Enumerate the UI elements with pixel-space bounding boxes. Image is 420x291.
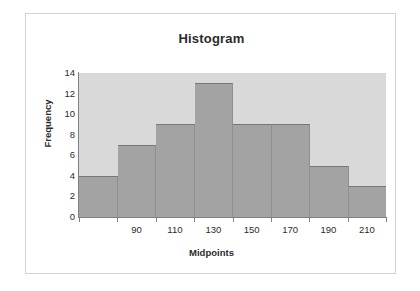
x-tick-label: 150 bbox=[233, 225, 271, 235]
histogram-bars bbox=[79, 73, 386, 217]
x-tick-mark bbox=[117, 218, 118, 222]
x-tick-mark bbox=[233, 218, 234, 222]
x-tick-mark bbox=[156, 218, 157, 222]
y-tick-label: 0 bbox=[53, 212, 75, 222]
x-tick-mark bbox=[309, 218, 310, 222]
y-tick-label: 8 bbox=[53, 130, 75, 140]
y-tick-label: 12 bbox=[53, 89, 75, 99]
chart-title: Histogram bbox=[26, 31, 397, 46]
x-tick-label: 210 bbox=[348, 225, 386, 235]
histogram-bar bbox=[272, 124, 311, 217]
x-tick-label: 130 bbox=[194, 225, 232, 235]
histogram-bar bbox=[349, 186, 387, 217]
y-tick-label: 10 bbox=[53, 109, 75, 119]
x-tick-mark bbox=[194, 218, 195, 222]
y-tick-label: 14 bbox=[53, 68, 75, 78]
chart-frame: Histogram Frequency 02468101214 90110130… bbox=[25, 13, 396, 274]
x-tick-label: 110 bbox=[156, 225, 194, 235]
y-tick-label: 6 bbox=[53, 151, 75, 161]
histogram-bar bbox=[156, 124, 195, 217]
histogram-bar bbox=[79, 176, 118, 217]
histogram-bar bbox=[233, 124, 272, 217]
y-axis-ticks: 02468101214 bbox=[48, 73, 75, 217]
y-tick-label: 4 bbox=[53, 171, 75, 181]
histogram-bar bbox=[118, 145, 157, 217]
x-tick-label: 190 bbox=[309, 225, 347, 235]
x-tick-mark bbox=[79, 218, 80, 222]
histogram-bar bbox=[195, 83, 234, 217]
x-tick-mark bbox=[271, 218, 272, 222]
x-axis-title: Midpoints bbox=[26, 247, 397, 258]
x-tick-mark bbox=[348, 218, 349, 222]
x-tick-label: 90 bbox=[118, 225, 156, 235]
x-axis-ticks: 90110130150170190210 bbox=[79, 218, 386, 244]
screenshot-root: Histogram Frequency 02468101214 90110130… bbox=[0, 0, 420, 291]
y-tick-label: 2 bbox=[53, 192, 75, 202]
x-tick-label: 170 bbox=[271, 225, 309, 235]
plot-area bbox=[79, 73, 386, 217]
x-tick-mark bbox=[386, 218, 387, 222]
histogram-bar bbox=[310, 166, 349, 217]
